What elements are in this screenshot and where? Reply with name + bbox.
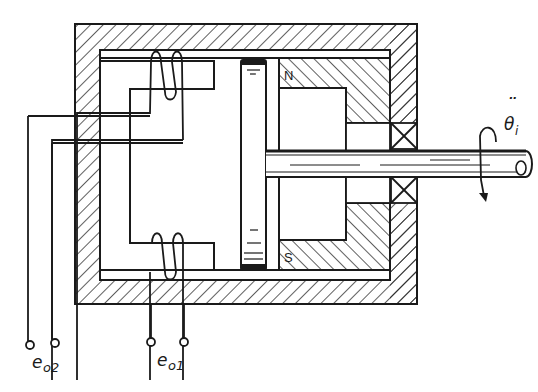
bearing-upper [391, 123, 417, 149]
eo1-subscript: o1 [168, 358, 184, 373]
accelerometer-diagram: N S ¨ θ i [0, 0, 538, 392]
terminal-eo1-b [180, 338, 188, 346]
disc [241, 60, 266, 270]
output-terminals [26, 338, 188, 349]
input-theta: θ [504, 114, 515, 134]
output1-label: e o1 [157, 350, 184, 373]
shaft [266, 151, 532, 177]
output2-label: e o2 [32, 352, 59, 375]
input-label: ¨ θ i [504, 93, 519, 138]
south-pole-label: S [284, 250, 293, 265]
bearing-lower [391, 177, 417, 203]
eo1-main: e [157, 350, 167, 370]
eo2-subscript: o2 [43, 360, 59, 375]
north-pole-label: N [284, 68, 293, 83]
terminal-eo1-a [147, 338, 155, 346]
terminal-eo2-b [51, 339, 59, 347]
input-subscript: i [515, 124, 519, 138]
eo2-main: e [32, 352, 42, 372]
terminal-eo2-a [26, 341, 34, 349]
